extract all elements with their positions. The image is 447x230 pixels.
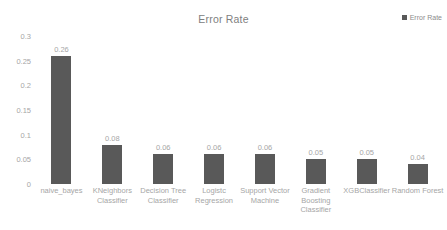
bar-group: 0.05: [290, 36, 341, 184]
x-axis-category-label: Support Vector Machine: [238, 186, 292, 205]
x-axis-category-label: Gradient Boosting Classifier: [289, 186, 343, 215]
bar-group: 0.06: [240, 36, 291, 184]
bar[interactable]: [102, 145, 122, 184]
x-axis-category-label: KNeighbors Classifier: [85, 186, 139, 205]
x-axis-category-label: XGBClassifier: [340, 186, 394, 196]
bar-value-label: 0.06: [207, 143, 222, 152]
x-axis: naive_bayesKNeighbors ClassifierDecision…: [36, 186, 443, 230]
y-axis-tick-label: 0.2: [21, 81, 31, 90]
legend-entry-label: Error Rate: [410, 14, 442, 21]
bars-layer: 0.260.080.060.060.060.050.050.04: [36, 36, 443, 184]
y-axis: 00.050.10.150.20.250.3: [0, 36, 34, 184]
y-axis-tick-label: 0.25: [16, 56, 31, 65]
bar[interactable]: [51, 56, 71, 184]
x-axis-category-label: Logistc Regression: [187, 186, 241, 205]
y-axis-tick-label: 0: [27, 180, 31, 189]
bar[interactable]: [408, 164, 428, 184]
bar-value-label: 0.06: [156, 143, 171, 152]
bar-value-label: 0.26: [54, 45, 69, 54]
bar-value-label: 0.04: [410, 153, 425, 162]
bar-value-label: 0.05: [309, 148, 324, 157]
bar-group: 0.04: [392, 36, 443, 184]
error-rate-bar-chart: Error Rate Error Rate 00.050.10.150.20.2…: [0, 0, 447, 230]
bar[interactable]: [357, 159, 377, 184]
x-axis-category-label: Random Forest: [391, 186, 445, 196]
bar[interactable]: [306, 159, 326, 184]
y-axis-tick-label: 0.1: [21, 130, 31, 139]
bar[interactable]: [255, 154, 275, 184]
bar-group: 0.08: [87, 36, 138, 184]
y-axis-tick-label: 0.05: [16, 155, 31, 164]
bar-group: 0.06: [189, 36, 240, 184]
legend-square-marker-icon: [402, 15, 407, 20]
bar-value-label: 0.06: [258, 143, 273, 152]
y-axis-tick-label: 0.3: [21, 32, 31, 41]
x-axis-category-label: Decision Tree Classifier: [136, 186, 190, 205]
chart-legend: Error Rate: [402, 14, 442, 21]
bar[interactable]: [153, 154, 173, 184]
bar-group: 0.06: [138, 36, 189, 184]
y-axis-tick-label: 0.15: [16, 106, 31, 115]
bar-value-label: 0.08: [105, 134, 120, 143]
chart-title: Error Rate: [0, 13, 447, 25]
plot-area: 0.260.080.060.060.060.050.050.04: [36, 36, 443, 184]
bar-group: 0.26: [36, 36, 87, 184]
bar-value-label: 0.05: [359, 148, 374, 157]
bar[interactable]: [204, 154, 224, 184]
bar-group: 0.05: [341, 36, 392, 184]
x-axis-category-label: naive_bayes: [34, 186, 88, 196]
